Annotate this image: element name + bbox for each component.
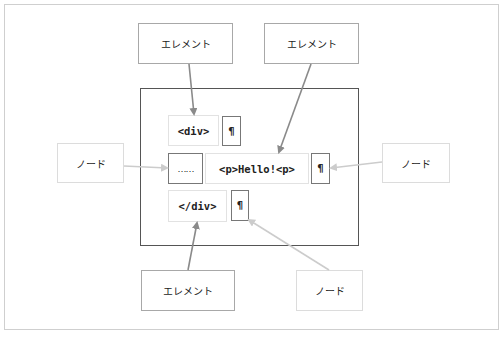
pilcrow-row3: ¶ <box>231 190 249 221</box>
node-label-right: ノード <box>382 143 450 183</box>
text-node-ellipsis: …… <box>168 153 203 184</box>
div-close-tag: </div> <box>168 190 227 222</box>
node-label-left: ノード <box>57 143 124 183</box>
pilcrow-row2: ¶ <box>311 153 330 184</box>
div-open-tag: <div> <box>168 115 219 146</box>
node-label-bottom: ノード <box>296 270 363 311</box>
element-label-top-right: エレメント <box>264 23 359 64</box>
element-label-bottom: エレメント <box>141 270 235 311</box>
element-label-top-left: エレメント <box>138 23 233 64</box>
p-hello-tag: <p>Hello!<p> <box>205 153 309 184</box>
pilcrow-row1: ¶ <box>222 116 241 146</box>
